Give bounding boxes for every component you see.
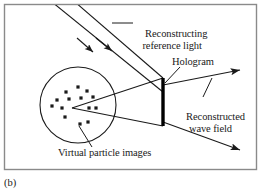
diagram-canvas — [0, 0, 262, 195]
label-wave-line1: Reconstructed — [186, 111, 245, 122]
label-reference-line2: reference light — [135, 40, 207, 51]
label-hologram: Hologram — [172, 56, 214, 67]
label-reference-line1: Reconstructing — [145, 28, 207, 39]
label-wave-line2: wave field — [176, 123, 245, 134]
figure-panel-b: Reconstructingreference light Hologram R… — [0, 0, 262, 195]
label-virtual-particle-images: Virtual particle images — [58, 147, 151, 158]
figure-caption: (b) — [4, 177, 16, 188]
label-reconstructed-wave-field: Reconstructedwave field — [176, 100, 245, 157]
